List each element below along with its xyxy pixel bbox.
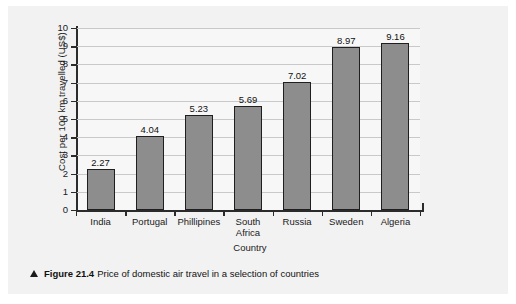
y-axis-tick-mark: [71, 101, 77, 102]
y-axis-tick-label: 9: [48, 40, 68, 52]
x-axis-category-label: Portugal: [125, 216, 174, 227]
y-axis-tick-label: 2: [48, 168, 68, 180]
y-axis-tick-mark: [71, 155, 77, 156]
triangle-up-icon: [30, 270, 38, 277]
x-axis-title: Country: [76, 242, 424, 253]
gridline: [76, 28, 420, 29]
figure-number: Figure 21.4: [44, 268, 94, 279]
bar: 5.23: [185, 115, 213, 210]
bar: 2.27: [87, 169, 115, 210]
y-axis-tick-label: 1: [48, 186, 68, 198]
gridline: [76, 46, 420, 47]
bar-value-label: 4.04: [140, 124, 159, 135]
bar-value-label: 9.16: [386, 31, 405, 42]
y-axis-tick-mark: [71, 46, 77, 47]
y-axis-tick-mark: [71, 64, 77, 65]
y-axis-tick: 1: [71, 192, 77, 193]
bar: 7.02: [283, 82, 311, 210]
bar: 8.97: [332, 47, 360, 210]
gridline: [76, 64, 420, 65]
y-axis-tick: 10: [71, 28, 77, 29]
bar-value-label: 5.23: [190, 103, 209, 114]
x-axis-category-label: Russia: [273, 216, 322, 227]
bar-chart: Cost per 100 km travelled (US$) 01234567…: [28, 20, 433, 235]
bar-value-label: 8.97: [337, 35, 356, 46]
bar-value-label: 5.69: [239, 94, 258, 105]
x-axis-tick-mark: [420, 210, 421, 216]
bar-value-label: 7.02: [288, 70, 307, 81]
y-axis-tick: 4: [71, 137, 77, 138]
y-axis-tick-mark: [71, 174, 77, 175]
y-axis-tick-label: 3: [48, 149, 68, 161]
bar: 5.69: [234, 106, 262, 210]
y-axis-tick-label: 7: [48, 77, 68, 89]
y-axis-tick-mark: [71, 192, 77, 193]
y-axis-tick-label: 10: [48, 22, 68, 34]
x-axis-end-cap: [422, 203, 424, 211]
y-axis-tick-label: 8: [48, 58, 68, 70]
x-axis-category-label: South Africa: [223, 216, 272, 238]
bar-value-label: 2.27: [91, 157, 110, 168]
y-axis-tick: 2: [71, 174, 77, 175]
y-axis-tick-label: 0: [48, 204, 68, 216]
bar: 4.04: [136, 136, 164, 210]
bar: 9.16: [381, 43, 409, 210]
gridline: [76, 83, 420, 84]
figure-caption: Figure 21.4Price of domestic air travel …: [30, 268, 319, 279]
y-axis-tick: 5: [71, 119, 77, 120]
y-axis-tick-mark: [71, 83, 77, 84]
y-axis-tick: 3: [71, 155, 77, 156]
y-axis-tick: 6: [71, 101, 77, 102]
y-axis-tick: 8: [71, 64, 77, 65]
y-axis-tick-label: 6: [48, 95, 68, 107]
y-axis-tick-mark: [71, 119, 77, 120]
y-axis-tick-mark: [71, 28, 77, 29]
x-axis-category-label: Sweden: [322, 216, 371, 227]
y-axis-tick: 7: [71, 83, 77, 84]
y-axis-tick-label: 5: [48, 113, 68, 125]
figure-panel: Cost per 100 km travelled (US$) 01234567…: [8, 6, 508, 294]
caption-text: Price of domestic air travel in a select…: [97, 268, 319, 279]
y-axis-tick-label: 4: [48, 131, 68, 143]
y-axis-tick-mark: [71, 137, 77, 138]
x-axis-category-label: Phillipines: [174, 216, 223, 227]
x-axis-category-label: Algeria: [371, 216, 420, 227]
y-axis-tick: 9: [71, 46, 77, 47]
x-axis-category-label: India: [76, 216, 125, 227]
